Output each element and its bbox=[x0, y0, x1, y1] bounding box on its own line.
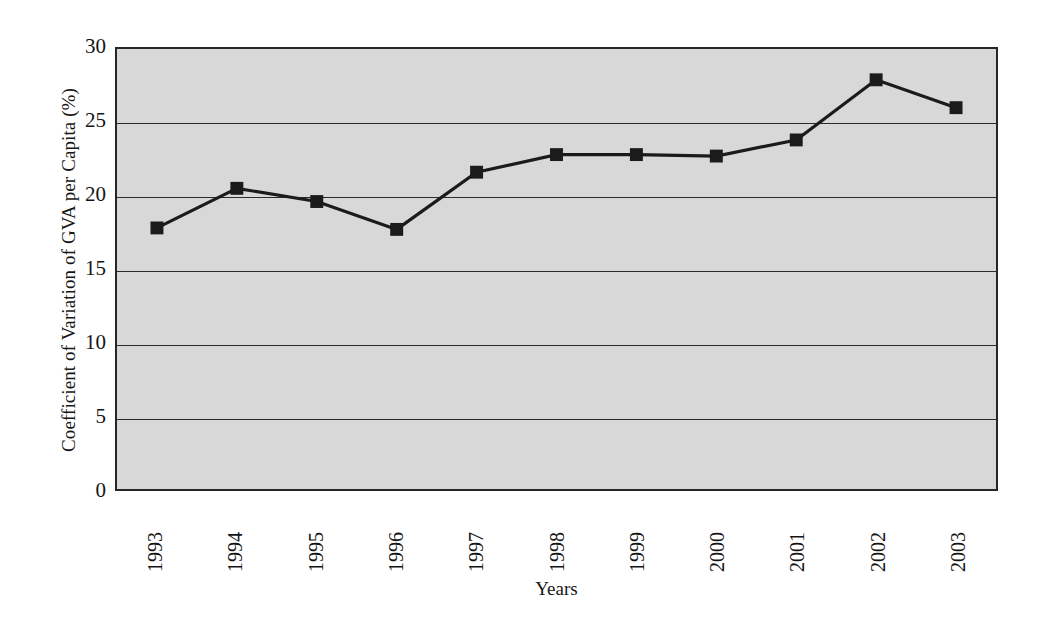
y-tick-label: 20 bbox=[62, 184, 106, 205]
y-axis-tick-labels: 051015202530 bbox=[60, 0, 106, 619]
y-tick-label: 15 bbox=[62, 258, 106, 279]
x-axis-title: Years bbox=[115, 578, 998, 600]
data-point-marker bbox=[630, 148, 643, 161]
y-tick-label: 25 bbox=[62, 110, 106, 131]
data-point-marker bbox=[150, 221, 163, 234]
data-point-marker bbox=[230, 182, 243, 195]
plot-area bbox=[115, 47, 998, 491]
y-tick-label: 0 bbox=[62, 480, 106, 501]
data-point-marker bbox=[710, 150, 723, 163]
y-tick-label: 5 bbox=[62, 406, 106, 427]
chart-figure: Coefficient of Variation of GVA per Capi… bbox=[0, 0, 1048, 619]
data-point-marker bbox=[950, 101, 963, 114]
data-point-marker bbox=[310, 195, 323, 208]
y-tick-label: 30 bbox=[62, 36, 106, 57]
data-point-marker bbox=[470, 166, 483, 179]
y-tick-label: 10 bbox=[62, 332, 106, 353]
line-series bbox=[117, 49, 996, 489]
data-point-marker bbox=[790, 133, 803, 146]
data-point-marker bbox=[870, 73, 883, 86]
data-point-marker bbox=[390, 223, 403, 236]
x-axis-tick-labels: 1993199419951996199719981999200020012002… bbox=[115, 491, 998, 571]
plot-inner bbox=[117, 49, 996, 489]
data-point-marker bbox=[550, 148, 563, 161]
